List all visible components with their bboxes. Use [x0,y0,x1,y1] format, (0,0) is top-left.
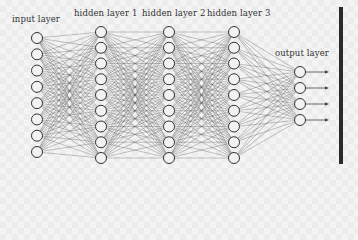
neuron-node [96,105,107,116]
neuron-node [96,153,107,164]
network-graph [0,0,358,171]
neuron-node [32,114,43,125]
input-layer-label: input layer [12,14,60,24]
neuron-node [229,42,240,53]
neuron-node [229,121,240,132]
neuron-node [32,147,43,158]
neuron-node [229,27,240,38]
nodes [32,27,306,164]
neuron-node [96,27,107,38]
neuron-node [96,90,107,101]
neuron-node [295,67,306,78]
neuron-node [32,98,43,109]
neuron-node [96,42,107,53]
neuron-node [32,65,43,76]
neuron-node [32,49,43,60]
hidden-layer-2-label: hidden layer 2 [142,8,205,18]
neuron-node [229,137,240,148]
neuron-node [164,27,175,38]
neuron-node [164,42,175,53]
output-layer-label: output layer [275,48,329,58]
neuron-node [164,153,175,164]
hidden-layer-3-label: hidden layer 3 [207,8,270,18]
neuron-node [164,105,175,116]
neuron-node [295,115,306,126]
neuron-node [229,58,240,69]
neuron-node [96,74,107,85]
neuron-node [164,74,175,85]
neuron-node [164,58,175,69]
neuron-node [164,121,175,132]
neuron-node [164,137,175,148]
neuron-node [295,99,306,110]
neuron-node [229,90,240,101]
neuron-node [229,74,240,85]
output-arrows [306,70,330,122]
neuron-node [295,83,306,94]
neuron-node [96,121,107,132]
neuron-node [229,105,240,116]
neural-network-diagram: input layer hidden layer 1 hidden layer … [0,0,358,171]
neuron-node [96,58,107,69]
hidden-layer-1-label: hidden layer 1 [74,8,137,18]
right-edge-bar [339,7,343,164]
neuron-node [32,33,43,44]
neuron-node [32,81,43,92]
neuron-node [229,153,240,164]
neuron-node [96,137,107,148]
neuron-node [32,130,43,141]
neuron-node [164,90,175,101]
